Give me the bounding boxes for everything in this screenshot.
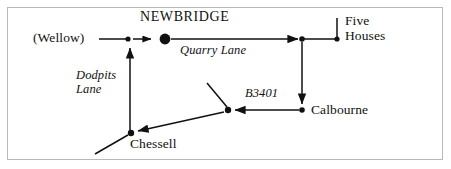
edge-spur-southwest-of-chessell [95, 135, 128, 154]
label-b3401: B3401 [245, 87, 278, 100]
label-chessell: Chessell [130, 137, 177, 151]
edge-junction-to-chessell [138, 112, 224, 131]
label-newbridge: NEWBRIDGE [140, 10, 229, 25]
road-network-diagram: NEWBRIDGE (Wellow) Quarry Lane Five Hous… [0, 0, 451, 169]
label-wellow: (Wellow) [33, 31, 84, 45]
node-dodpits-junction [125, 36, 130, 41]
node-five-houses-junction [299, 36, 305, 42]
label-five-houses-line1: Five [345, 13, 385, 28]
node-calbourne [299, 107, 305, 113]
label-dodpits-lane: Dodpits Lane [76, 68, 116, 96]
label-five-houses: Five Houses [345, 13, 385, 43]
node-five-houses-terminus [334, 36, 339, 41]
label-dodpits-lane-line2: Lane [76, 82, 116, 96]
label-five-houses-line2: Houses [345, 28, 385, 43]
label-calbourne: Calbourne [311, 103, 368, 117]
edge-spur-north-of-junction [207, 83, 227, 107]
label-quarry-lane: Quarry Lane [180, 44, 246, 57]
node-b3401-junction [225, 107, 231, 113]
node-newbridge-village [160, 34, 171, 45]
label-dodpits-lane-line1: Dodpits [76, 68, 116, 82]
